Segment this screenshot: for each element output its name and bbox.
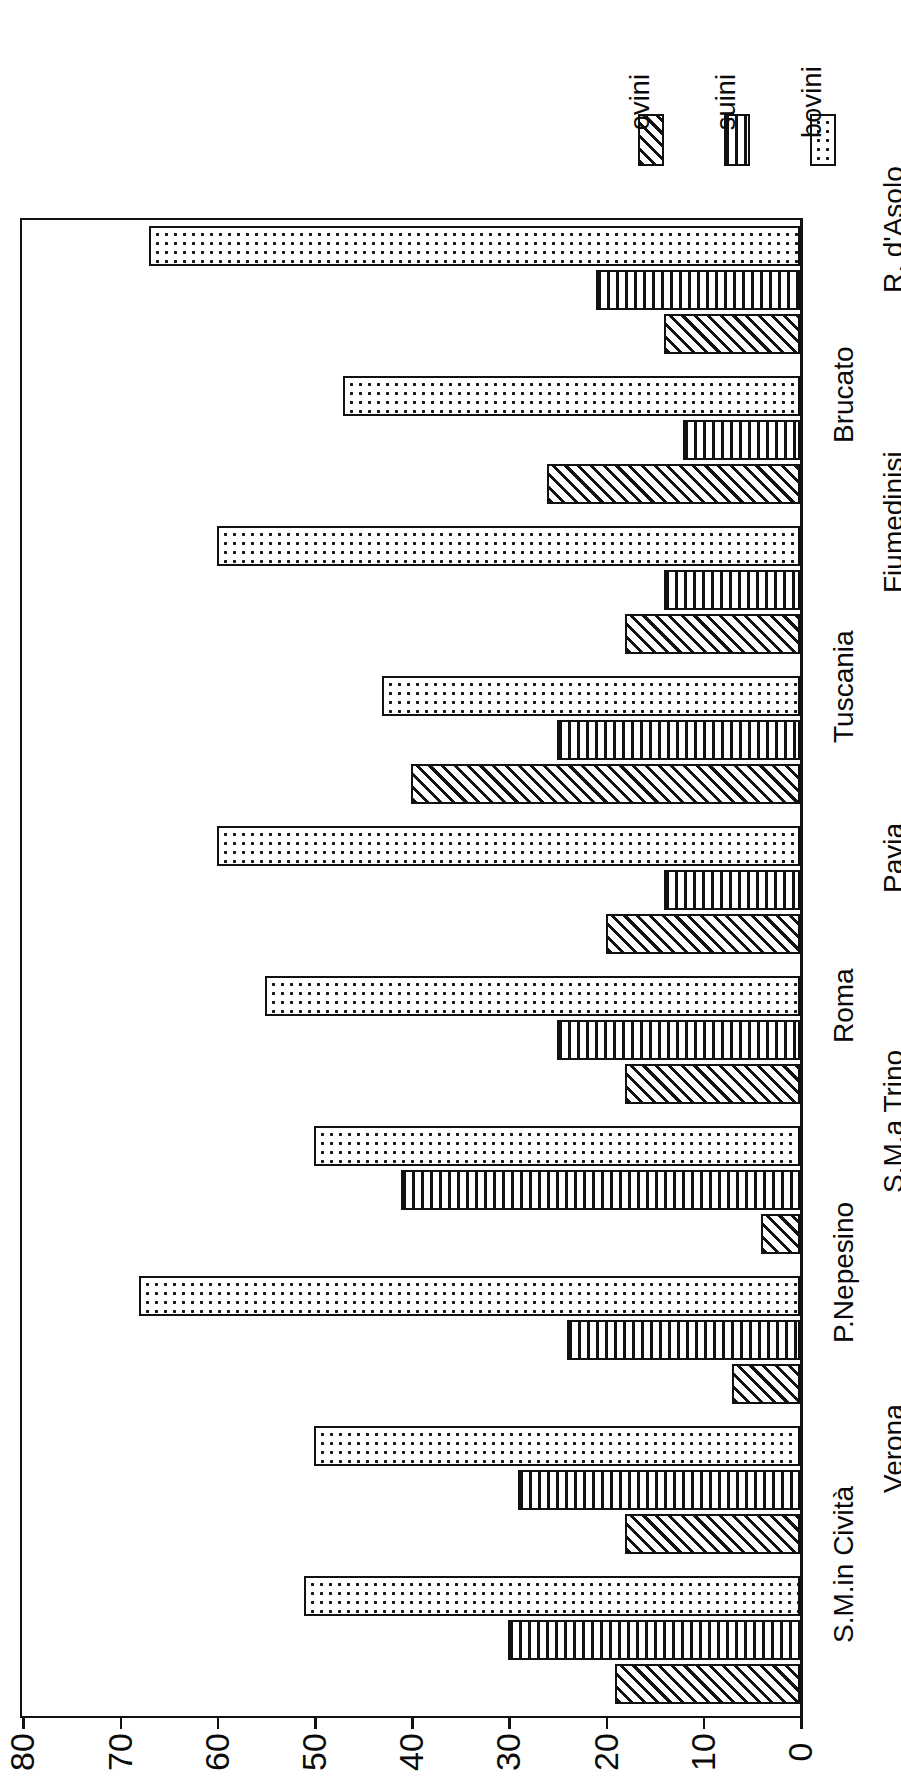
axis-tick-40 xyxy=(411,1718,414,1729)
bar-suini xyxy=(508,1620,800,1660)
bar-ovini xyxy=(761,1214,800,1254)
bar-bovini xyxy=(149,226,800,266)
bar-suini xyxy=(557,1020,800,1060)
bar-ovini xyxy=(732,1364,800,1404)
bar-suini xyxy=(557,720,800,760)
axis-tick-30 xyxy=(508,1718,511,1729)
axis-tick-label-80: 80 xyxy=(0,1735,52,1769)
bar-ovini xyxy=(625,1064,800,1104)
bar-ovini xyxy=(606,914,800,954)
legend-label-ovini: ovini xyxy=(627,74,654,131)
legend-item-ovini: ovini xyxy=(631,8,677,188)
axis-tick-20 xyxy=(606,1718,609,1729)
legend-label-bovini: bovini xyxy=(799,66,826,138)
bar-bovini xyxy=(139,1276,800,1316)
bar-ovini xyxy=(547,464,800,504)
legend-item-bovini: bovini xyxy=(803,8,849,188)
bar-ovini xyxy=(615,1664,800,1704)
bar-bovini xyxy=(343,376,800,416)
bar-suini xyxy=(596,270,800,310)
bar-ovini xyxy=(664,314,800,354)
axis-tick-10 xyxy=(703,1718,706,1729)
bar-suini xyxy=(664,570,800,610)
legend-item-suini: suini xyxy=(717,8,763,188)
axis-tick-label-20: 20 xyxy=(576,1735,636,1769)
axis-tick-label-70: 70 xyxy=(90,1735,150,1769)
chart-legend: ovinisuinibovini xyxy=(631,8,891,198)
axis-tick-label-10: 10 xyxy=(673,1735,733,1769)
axis-tick-label-30: 30 xyxy=(478,1735,538,1769)
bar-bovini xyxy=(314,1426,800,1466)
axis-tick-label-50: 50 xyxy=(284,1735,344,1769)
bar-bovini xyxy=(314,1126,800,1166)
bar-ovini xyxy=(625,614,800,654)
bar-suini xyxy=(518,1470,800,1510)
axis-tick-label-0: 0 xyxy=(770,1735,830,1769)
value-axis-zero-line xyxy=(800,218,803,1718)
axis-tick-70 xyxy=(120,1718,123,1729)
bar-ovini xyxy=(411,764,800,804)
bar-suini xyxy=(664,870,800,910)
legend-label-suini: suini xyxy=(713,74,740,131)
axis-tick-80 xyxy=(22,1718,25,1729)
bar-bovini xyxy=(382,676,800,716)
bar-bovini xyxy=(217,826,800,866)
axis-tick-50 xyxy=(314,1718,317,1729)
bar-suini xyxy=(567,1320,800,1360)
axis-tick-label-60: 60 xyxy=(187,1735,247,1769)
bar-suini xyxy=(683,420,800,460)
bar-bovini xyxy=(265,976,800,1016)
axis-tick-label-40: 40 xyxy=(381,1735,441,1769)
bar-ovini xyxy=(625,1514,800,1554)
bar-bovini xyxy=(304,1576,800,1616)
axis-tick-0 xyxy=(800,1718,803,1729)
bar-bovini xyxy=(217,526,800,566)
bar-suini xyxy=(401,1170,800,1210)
axis-tick-60 xyxy=(217,1718,220,1729)
